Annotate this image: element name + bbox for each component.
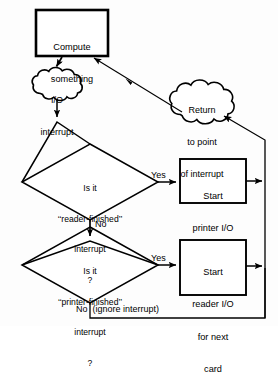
node-decision-printer-finished	[22, 227, 158, 303]
node-compute-something	[36, 10, 108, 56]
edge-compute-to-io-interrupt	[57, 57, 63, 67]
node-start-reader-io-for-next-card	[180, 240, 246, 295]
start-reader-line-4: card	[180, 364, 246, 375]
node-io-interrupt	[32, 68, 82, 101]
node-start-printer-io	[180, 159, 246, 203]
edge-return-to-compute	[94, 58, 182, 112]
start-reader-line-3: for next	[180, 332, 246, 343]
edge-return-to-compute-mid-arrow	[128, 80, 148, 92]
decision-printer-line-4: ?	[20, 358, 160, 368]
node-return-to-point-of-interrupt	[170, 80, 234, 124]
decision-printer-line-3: interrupt	[20, 327, 160, 337]
node-decision-reader-finished	[22, 144, 158, 220]
